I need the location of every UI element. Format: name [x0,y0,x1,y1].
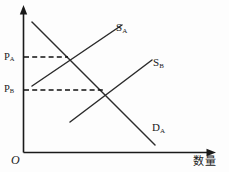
x-axis [24,149,217,156]
curve-label-supply-b: SB [153,57,164,70]
curve-label-supply-a: SA [116,22,127,35]
origin-label: O [11,154,20,166]
demand-curve-da [32,22,155,145]
figure-canvas [0,0,229,172]
supply-demand-figure: SA SB DA PA PB O 数量 [0,0,229,172]
curve-label-demand-a-sub: A [160,127,165,135]
price-label-pa: PA [4,52,15,63]
price-label-pb: PB [4,84,14,95]
supply-curve-sa [32,25,122,86]
curve-label-supply-b-sub: B [159,62,164,70]
curve-label-supply-a-sub: A [122,27,127,35]
curve-label-demand-a-base: D [152,121,160,133]
curve-label-demand-a: DA [152,122,165,135]
y-axis-arrow-icon [20,5,27,15]
price-label-pa-sub: A [10,55,15,62]
price-label-pb-sub: B [10,87,14,94]
supply-curve-sb [70,60,152,122]
y-axis [20,5,27,153]
x-axis-title: 数量 [193,156,216,167]
